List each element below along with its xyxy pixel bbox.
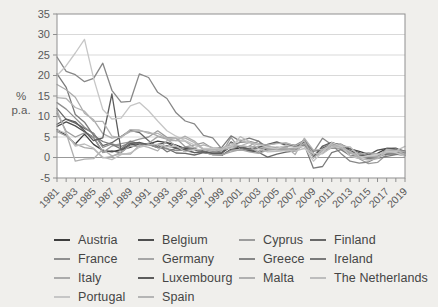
legend-swatch [54, 296, 70, 298]
legend-swatch [54, 258, 70, 260]
y-tick-label: 30 [38, 28, 50, 40]
legend-label: Germany [162, 252, 214, 266]
legend-item-greece: Greece [239, 252, 310, 266]
legend: AustriaBelgiumCyprusFinlandFranceGermany… [54, 230, 428, 306]
y-tick-label: 0 [44, 151, 50, 163]
y-tick-label: -5 [40, 172, 50, 184]
legend-item-germany: Germany [138, 252, 239, 266]
legend-label: Belgium [162, 233, 208, 247]
y-axis-unit-pa: p.a. [11, 104, 30, 116]
legend-item-finland: Finland [310, 233, 428, 247]
legend-label: Greece [263, 252, 305, 266]
legend-item-ireland: Ireland [310, 252, 428, 266]
legend-swatch [310, 239, 326, 241]
y-tick-label: 35 [38, 8, 50, 20]
legend-label: Malta [263, 271, 294, 285]
legend-label: Luxembourg [162, 271, 233, 285]
legend-swatch [239, 258, 255, 260]
legend-item-austria: Austria [54, 233, 138, 247]
legend-item-france: France [54, 252, 138, 266]
legend-label: Finland [334, 233, 376, 247]
legend-swatch [54, 277, 70, 279]
legend-label: Italy [78, 271, 101, 285]
legend-label: The Netherlands [334, 271, 428, 285]
legend-item-belgium: Belgium [138, 233, 239, 247]
legend-label: Spain [162, 290, 194, 304]
legend-label: Portugal [78, 290, 125, 304]
y-tick-label: 25 [38, 49, 50, 61]
line-chart-canvas: 35302520151050-5198119831985198719891991… [0, 0, 438, 228]
legend-swatch [138, 296, 154, 298]
y-tick-label: 10 [38, 110, 50, 122]
x-tick-label: 2019 [384, 185, 409, 210]
legend-swatch [310, 277, 326, 279]
legend-item-italy: Italy [54, 271, 138, 285]
legend-label: Ireland [334, 252, 373, 266]
legend-label: Cyprus [263, 233, 303, 247]
legend-item-spain: Spain [138, 290, 239, 304]
legend-swatch [310, 258, 326, 260]
legend-swatch [54, 239, 70, 241]
y-tick-label: 20 [38, 69, 50, 81]
legend-swatch [239, 239, 255, 241]
legend-swatch [138, 239, 154, 241]
legend-item-cyprus: Cyprus [239, 233, 310, 247]
legend-swatch [239, 277, 255, 279]
legend-item-malta: Malta [239, 271, 310, 285]
legend-item-portugal: Portugal [54, 290, 138, 304]
legend-label: France [78, 252, 118, 266]
legend-item-the-netherlands: The Netherlands [310, 271, 428, 285]
inflation-line-chart-figure: 35302520151050-5198119831985198719891991… [0, 0, 438, 307]
legend-swatch [138, 258, 154, 260]
y-axis-unit-percent: % [16, 90, 26, 102]
legend-item-luxembourg: Luxembourg [138, 271, 239, 285]
legend-swatch [138, 277, 154, 279]
y-tick-label: 15 [38, 90, 50, 102]
legend-label: Austria [78, 233, 118, 247]
y-tick-label: 5 [44, 131, 50, 143]
